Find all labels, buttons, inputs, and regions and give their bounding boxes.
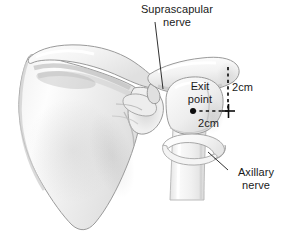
scapula-group (19, 45, 164, 230)
label-measurement-vertical: 2cm (232, 81, 253, 94)
label-suprascapular-nerve: Suprascapular nerve (129, 3, 225, 28)
anatomy-figure: Suprascapular nerve Exit point 2cm 2cm A… (0, 0, 284, 250)
label-exit-point-line1: Exit (191, 80, 210, 92)
label-axillary-nerve-line1: Axillary (238, 166, 274, 178)
label-measurement-horizontal: 2cm (198, 117, 219, 130)
shoulder-anatomy-illustration (0, 0, 284, 250)
exit-point-dot (190, 108, 196, 114)
label-axillary-nerve-line2: nerve (230, 179, 282, 192)
label-suprascapular-nerve-line2: nerve (129, 16, 225, 29)
label-exit-point: Exit point (178, 80, 222, 105)
label-axillary-nerve: Axillary nerve (230, 166, 282, 191)
label-exit-point-line2: point (178, 93, 222, 106)
label-suprascapular-nerve-line1: Suprascapular (141, 3, 213, 15)
